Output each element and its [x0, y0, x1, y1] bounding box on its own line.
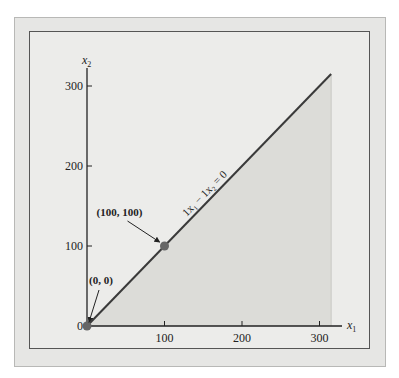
point-annotation: (100, 100)	[97, 206, 143, 219]
y-axis-label: x2	[81, 53, 91, 69]
y-tick-label: 0	[77, 319, 83, 333]
x-tick-label: 100	[156, 331, 174, 345]
y-tick-label: 100	[65, 239, 83, 253]
y-ticks: 0100200300	[65, 79, 92, 333]
x-tick-label: 300	[311, 331, 329, 345]
x-tick-label: 200	[233, 331, 251, 345]
data-point	[160, 242, 169, 251]
annotation-arrow	[128, 221, 160, 242]
x-axis-label: x1	[346, 318, 356, 334]
point-annotation: (0, 0)	[89, 274, 113, 287]
chart-svg: 100200300 0100200300 x1 x2 1x₁ − 1x₂ = 0…	[0, 0, 399, 378]
y-tick-label: 300	[65, 79, 83, 93]
data-point	[83, 322, 92, 331]
y-tick-label: 200	[65, 159, 83, 173]
